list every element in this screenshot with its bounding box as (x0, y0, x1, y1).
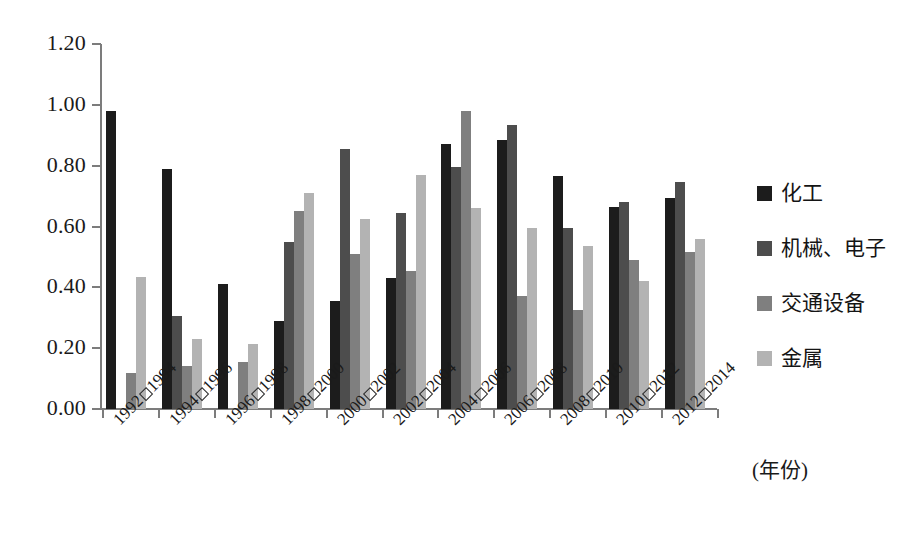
legend-item[interactable]: 化工 (757, 182, 823, 204)
missing-glyph-box-icon (139, 387, 153, 401)
bar (406, 271, 416, 409)
x-axis-tick (493, 409, 495, 418)
y-axis-tick (92, 347, 101, 349)
x-axis-title: (年份) (752, 458, 808, 482)
legend-swatch-icon (757, 186, 772, 201)
x-axis-tick (549, 409, 551, 418)
y-axis-tick (92, 226, 101, 228)
bar-group (609, 44, 649, 409)
x-axis-tick (270, 409, 272, 418)
bar (396, 213, 406, 409)
y-axis-tick-label-text: 1.20 (14, 32, 86, 54)
y-axis-tick (92, 43, 101, 45)
bar-group (665, 44, 705, 409)
legend-swatch-icon (757, 351, 772, 366)
missing-glyph-box-icon (698, 387, 712, 401)
bar-group (274, 44, 314, 409)
bar (629, 260, 639, 409)
bar (461, 111, 471, 409)
bar (563, 228, 573, 409)
legend-swatch-icon (757, 296, 772, 311)
bar-group (218, 44, 258, 409)
missing-glyph-box-icon (642, 387, 656, 401)
x-axis-tick (437, 409, 439, 418)
x-axis-tick (605, 409, 607, 418)
bar (416, 175, 426, 409)
bar-group (386, 44, 426, 409)
x-axis-tick (717, 409, 719, 418)
legend-label: 化工 (781, 182, 823, 204)
x-axis-tick (158, 409, 160, 418)
missing-glyph-box-icon (586, 387, 600, 401)
x-axis-tick (102, 409, 104, 418)
x-axis-tick (326, 409, 328, 418)
bar (284, 242, 294, 409)
bar (106, 111, 116, 409)
missing-glyph-box-icon (250, 387, 264, 401)
missing-glyph-box-icon (195, 387, 209, 401)
bar (172, 316, 182, 409)
missing-glyph-box-icon (474, 387, 488, 401)
bar-group (441, 44, 481, 409)
plot-area (102, 44, 717, 409)
bar (330, 301, 340, 409)
bar (386, 278, 396, 409)
bar (685, 252, 695, 409)
x-axis-tick (382, 409, 384, 418)
bar-group (162, 44, 202, 409)
y-axis-tick (92, 286, 101, 288)
legend-item[interactable]: 机械、电子 (757, 237, 886, 259)
bar-group (330, 44, 370, 409)
missing-glyph-box-icon (530, 387, 544, 401)
bar-chart: 0.000.200.400.600.801.001.20 19921994199… (0, 0, 917, 545)
legend-item[interactable]: 交通设备 (757, 292, 865, 314)
bar-group (497, 44, 537, 409)
missing-glyph-box-icon (362, 387, 376, 401)
y-axis-tick (92, 165, 101, 167)
y-axis-tick-label-text: 0.80 (14, 154, 86, 176)
x-axis-tick (214, 409, 216, 418)
y-axis-tick-label-text: 0.40 (14, 275, 86, 297)
legend-label: 交通设备 (781, 292, 865, 314)
y-axis-tick (92, 408, 101, 410)
y-axis-tick-label-text: 0.00 (14, 397, 86, 419)
y-axis-tick-label-text: 0.60 (14, 215, 86, 237)
legend-swatch-icon (757, 241, 772, 256)
y-axis-tick (92, 104, 101, 106)
bar (350, 254, 360, 409)
bar-group (106, 44, 146, 409)
y-axis-tick-label-text: 0.20 (14, 336, 86, 358)
bar (218, 284, 228, 409)
bar (619, 202, 629, 409)
legend-label: 金属 (781, 347, 823, 369)
missing-glyph-box-icon (418, 387, 432, 401)
bar (294, 211, 304, 409)
missing-glyph-box-icon (306, 387, 320, 401)
bar (304, 193, 314, 409)
bar-group (553, 44, 593, 409)
y-axis-tick-label-text: 1.00 (14, 93, 86, 115)
legend-item[interactable]: 金属 (757, 347, 823, 369)
legend-label: 机械、电子 (781, 237, 886, 259)
x-axis-tick (661, 409, 663, 418)
